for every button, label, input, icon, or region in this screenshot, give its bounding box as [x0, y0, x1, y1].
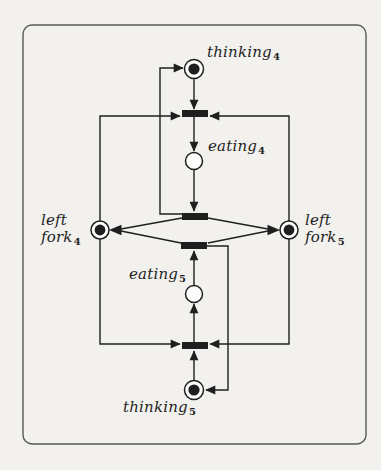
label-thinking4-sub: 4: [273, 51, 280, 62]
petri-net-figure: thinking4 eating4 leftfork4 leftfork5 ea…: [0, 0, 381, 470]
token-thinking4: [188, 63, 199, 74]
arrowhead-into-fork4: [109, 225, 122, 235]
transition-take-forks-5: [182, 342, 208, 349]
arc-fork5-to-t1: [210, 116, 289, 221]
label-left-fork4-line1: left: [41, 211, 67, 229]
token-left-fork5: [284, 225, 295, 236]
token-left-fork4: [95, 225, 106, 236]
arc-t3-to-fork5: [208, 231, 268, 243]
arc-t2-to-fork4: [121, 218, 182, 229]
transition-take-forks-4: [182, 110, 208, 117]
label-left-fork5: leftfork5: [305, 212, 345, 247]
label-left-fork5-line2: fork: [305, 228, 337, 246]
label-eating4-sub: 4: [258, 145, 265, 156]
arc-fork4-to-t1: [100, 116, 180, 221]
arc-t3-to-fork4: [121, 231, 181, 243]
arc-fork4-to-t4: [100, 239, 180, 344]
transition-release-forks-4: [182, 213, 208, 220]
label-eating5-text: eating: [129, 265, 178, 283]
label-left-fork4-sub: 4: [74, 236, 81, 247]
place-eating4: [186, 153, 203, 170]
arc-fork5-to-t4: [210, 239, 289, 344]
label-thinking4-text: thinking: [207, 43, 272, 61]
label-eating4: eating4: [208, 138, 265, 156]
place-eating5: [186, 286, 203, 303]
label-left-fork4-line2: fork: [41, 228, 73, 246]
label-left-fork5-sub: 5: [338, 236, 345, 247]
label-thinking4: thinking4: [207, 44, 280, 62]
label-eating4-text: eating: [208, 137, 257, 155]
label-thinking5-text: thinking: [123, 398, 188, 416]
arc-t2-to-thinking4: [160, 68, 183, 214]
transition-release-forks-5: [181, 242, 207, 249]
label-left-fork4: leftfork4: [41, 212, 81, 247]
label-eating5: eating5: [129, 266, 186, 284]
arrowhead-into-fork5: [268, 225, 281, 235]
arc-t3-to-thinking5: [206, 246, 228, 390]
label-thinking5-sub: 5: [189, 406, 196, 417]
label-thinking5: thinking5: [123, 399, 196, 417]
label-eating5-sub: 5: [179, 273, 186, 284]
label-left-fork5-line1: left: [305, 211, 331, 229]
token-thinking5: [188, 384, 199, 395]
arc-t2-to-fork5: [208, 218, 268, 229]
